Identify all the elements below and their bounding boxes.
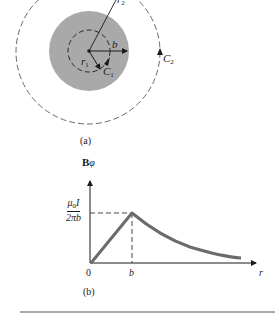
x-tick-b: b [129, 268, 134, 278]
label-c2-sub: 2 [170, 58, 174, 66]
current-symbol: I [76, 197, 79, 208]
figure-a-diagram [16, 0, 163, 124]
label-c2: C2 [163, 53, 174, 66]
label-r1-sub: 1 [85, 61, 89, 69]
figure-canvas [0, 0, 275, 317]
figure-b-plot [90, 181, 256, 263]
y-axis-label: Bφ [82, 157, 95, 168]
field-curve [91, 213, 241, 263]
label-r2-sub: 2 [121, 0, 125, 7]
center-point [87, 49, 91, 53]
label-c1-sub: 1 [110, 71, 114, 79]
caption-a: (a) [80, 136, 91, 146]
peak-value-numerator: μ0I [67, 198, 81, 212]
x-tick-0: 0 [86, 268, 91, 278]
label-c1: C1 [103, 66, 114, 79]
label-b: b [112, 39, 118, 50]
label-r2: r2 [117, 0, 125, 7]
y-axis-label-sub: φ [89, 157, 95, 168]
peak-value-denominator: 2πb [66, 212, 81, 223]
label-r1: r1 [81, 56, 89, 69]
caption-b: (b) [83, 287, 95, 297]
x-axis-label: r [259, 268, 263, 278]
peak-value-label: μ0I 2πb [66, 198, 81, 223]
